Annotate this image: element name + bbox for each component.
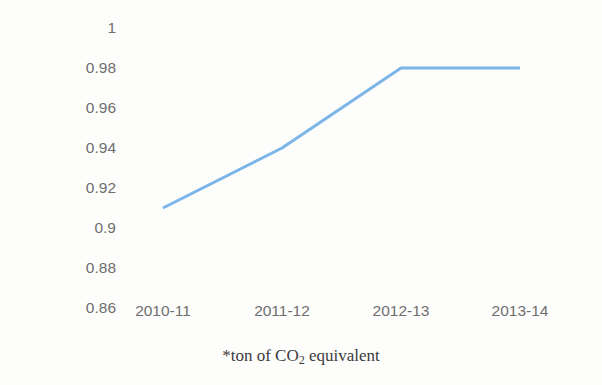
y-axis-tick-label: 0.98 (48, 60, 116, 76)
y-axis-tick-label: 0.9 (48, 220, 116, 236)
x-axis-tick-label: 2011-12 (222, 302, 342, 321)
emissions-intensity-line-chart: tCO2e*/MWh 10.980.960.940.920.90.880.86 … (0, 0, 602, 385)
footnote-suffix: equivalent (305, 346, 380, 365)
series-polyline (163, 68, 520, 208)
y-axis-tick-label: 0.96 (48, 100, 116, 116)
y-axis-tick-label: 0.88 (48, 260, 116, 276)
footnote-prefix: *ton of CO (222, 346, 299, 365)
x-axis-tick-label: 2010-11 (103, 302, 223, 321)
y-axis-tick-label: 0.94 (48, 140, 116, 156)
plot-area (120, 0, 590, 310)
x-axis-tick-labels: 2010-112011-122012-132013-14 (0, 302, 602, 332)
x-axis-tick-label: 2013-14 (460, 302, 580, 321)
chart-footnote: *ton of CO2 equivalent (0, 346, 602, 368)
y-axis-tick-label: 0.92 (48, 180, 116, 196)
x-axis-tick-label: 2012-13 (341, 302, 461, 321)
y-axis-tick-labels: 10.980.960.940.920.90.880.86 (48, 0, 116, 310)
y-axis-tick-label: 1 (48, 20, 116, 36)
data-series-line (120, 0, 590, 310)
